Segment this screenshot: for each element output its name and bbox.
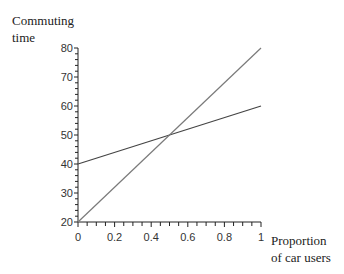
series-line-b [78,48,261,222]
y-tick-label: 50 [61,129,73,141]
x-axis-label-line1: Proportion [271,233,327,248]
y-axis-label-line2: time [12,30,35,45]
y-tick-label: 40 [61,158,73,170]
x-tick-label: 0.2 [107,231,122,243]
x-tick-label: 1 [258,231,264,243]
y-tick-label: 60 [61,100,73,112]
x-tick-label: 0 [75,231,81,243]
y-tick-label: 20 [61,216,73,228]
y-tick-label: 80 [61,42,73,54]
line-chart: Commuting time Proportion of car users 2… [0,0,344,274]
x-tick-label: 0.4 [144,231,159,243]
series-group [78,48,261,222]
x-tick-label: 0.6 [180,231,195,243]
y-tick-label: 30 [61,187,73,199]
x-tick-label: 0.8 [217,231,232,243]
y-tick-label: 70 [61,71,73,83]
y-axis-label-line1: Commuting [12,13,75,28]
x-axis-label-line2: of car users [271,250,331,265]
